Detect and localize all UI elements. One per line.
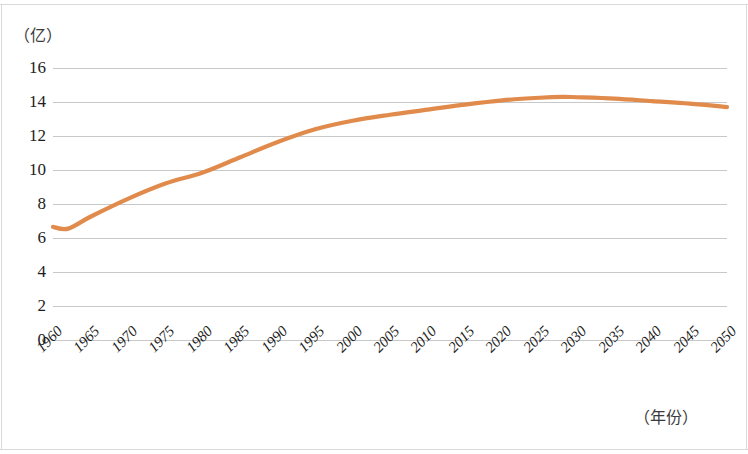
chart-frame-bottom [0,449,748,450]
x-axis-unit-label: （年份） [634,404,698,428]
data-line-series [53,68,727,340]
chart-frame-top [0,4,748,5]
y-axis-tick-label: 8 [12,195,46,212]
chart-frame-right [746,4,747,450]
y-axis-tick-label: 16 [12,59,46,76]
chart-frame-left [1,4,2,450]
series-path-population [53,97,727,229]
y-axis-tick-label: 14 [12,93,46,110]
y-axis-tick-label: 12 [12,127,46,144]
y-axis-tick-label: 4 [12,263,46,280]
x-axis-tick-labels: 1960196519701975198019851990199520002005… [53,344,727,404]
population-line-chart: （亿） 1614121086420 1960196519701975198019… [0,0,748,454]
y-axis-tick-label: 6 [12,229,46,246]
y-axis-tick-label: 2 [12,297,46,314]
plot-area [53,68,727,340]
y-axis-tick-labels: 1614121086420 [6,68,46,340]
y-axis-tick-label: 10 [12,161,46,178]
y-axis-unit-label: （亿） [14,22,62,46]
